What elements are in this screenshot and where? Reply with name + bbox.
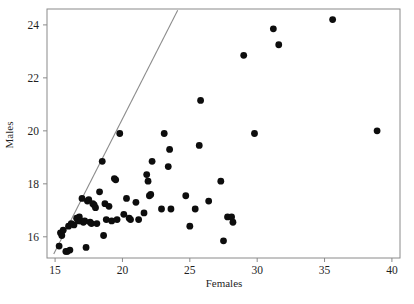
data-point — [165, 163, 172, 170]
data-point — [374, 127, 381, 134]
data-point — [186, 223, 193, 230]
data-point — [240, 52, 247, 59]
data-point — [143, 171, 150, 178]
data-point — [270, 25, 277, 32]
y-tick-label: 20 — [28, 125, 40, 137]
x-tick-label: 25 — [184, 264, 196, 276]
y-tick-label: 18 — [28, 178, 40, 190]
data-point — [120, 211, 127, 218]
data-point — [93, 220, 100, 227]
x-tick-label: 30 — [251, 264, 263, 276]
x-tick-label: 35 — [319, 264, 331, 276]
data-point — [123, 195, 130, 202]
data-point — [251, 130, 258, 137]
data-point — [127, 216, 134, 223]
data-point — [67, 247, 74, 254]
data-point — [275, 41, 282, 48]
data-point — [192, 206, 199, 213]
x-axis-title: Females — [206, 277, 243, 289]
x-tick-label: 20 — [117, 264, 129, 276]
y-tick-label: 22 — [28, 72, 40, 84]
data-point — [83, 244, 90, 251]
data-point — [141, 210, 148, 217]
data-point — [99, 158, 106, 165]
plot-frame — [47, 9, 400, 258]
plot-canvas: 1520253035401618202224 Females Males — [0, 0, 414, 304]
data-point — [60, 227, 67, 234]
scatter-plot-figure: 1520253035401618202224 Females Males — [0, 0, 414, 304]
data-point — [56, 243, 63, 250]
axis-tick-labels: 1520253035401618202224 — [28, 19, 398, 276]
data-point — [149, 158, 156, 165]
data-point — [182, 192, 189, 199]
data-points — [56, 16, 381, 255]
data-point — [92, 204, 99, 211]
data-point — [106, 203, 113, 210]
data-point — [158, 206, 165, 213]
data-point — [220, 237, 227, 244]
data-point — [96, 188, 103, 195]
data-point — [145, 178, 152, 185]
data-point — [116, 130, 123, 137]
data-point — [197, 97, 204, 104]
data-point — [166, 146, 173, 153]
y-axis-title: Males — [3, 122, 15, 149]
data-point — [133, 199, 140, 206]
x-tick-label: 40 — [386, 264, 398, 276]
data-point — [205, 198, 212, 205]
y-tick-label: 16 — [28, 231, 40, 243]
y-tick-label: 24 — [28, 19, 40, 31]
data-point — [112, 176, 119, 183]
data-point — [114, 216, 121, 223]
data-point — [217, 178, 224, 185]
data-point — [329, 16, 336, 23]
data-point — [147, 191, 154, 198]
x-tick-label: 15 — [49, 264, 61, 276]
data-point — [135, 216, 142, 223]
data-point — [100, 232, 107, 239]
data-point — [161, 130, 168, 137]
data-point — [196, 142, 203, 149]
data-point — [230, 219, 237, 226]
data-point — [168, 206, 175, 213]
